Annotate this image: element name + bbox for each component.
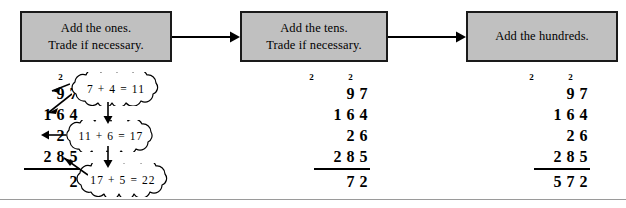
carry-row-top-hundreds: 2: [508, 72, 590, 83]
step-box-ones-line2: Trade if necessary.: [48, 37, 143, 54]
step-box-hundreds: Add the hundreds.: [466, 11, 618, 62]
arrow-down-icon-callout1-to-callout2: [100, 102, 116, 124]
addend-row-164: 1 6 4: [508, 104, 590, 125]
answer-rule: [534, 168, 590, 170]
step-box-tens-line1: Add the tens.: [280, 20, 348, 37]
addend-row-285: 2 8 5: [288, 146, 370, 167]
arrow-right-icon-ones-to-tens: [172, 30, 240, 44]
step-box-ones-line1: Add the ones.: [61, 20, 131, 37]
addend-row-285: 2 8 5: [508, 146, 590, 167]
callout-cloud-ones-1: 7 + 4 = 11: [64, 72, 168, 106]
carry-digit-hundreds: 2: [305, 72, 318, 83]
arrow-right-icon-tens-to-hundreds: [388, 30, 466, 44]
step-box-ones: Add the ones. Trade if necessary.: [20, 11, 172, 62]
answer-row-hundreds: 5 7 2: [508, 171, 590, 192]
carry-digit-hundreds: 2: [525, 72, 538, 83]
addend-row-26: 2 6: [508, 125, 590, 146]
computation-step-hundreds: 2 9 7 2 000 1 6 4 2 6 2 8 5 5 7 2: [508, 72, 590, 192]
answer-row-tens: 7 2: [288, 171, 370, 192]
carry-digit-tens: 2: [564, 72, 577, 83]
step-box-tens-line2: Trade if necessary.: [266, 37, 361, 54]
arrow-left-icon-callout1-to-164: [40, 92, 72, 118]
carry-row-top-tens: 2: [288, 72, 370, 83]
answer-rule: [314, 168, 370, 170]
carry-digit-tens: 2: [344, 72, 357, 83]
arrow-left-icon-callout2-to-26: [40, 128, 66, 142]
page-bottom-rule: [0, 199, 626, 200]
addend-row-97: 9 7: [288, 83, 370, 104]
step-box-tens: Add the tens. Trade if necessary.: [240, 11, 388, 62]
step-box-hundreds-line1: Add the hundreds.: [495, 28, 589, 45]
addend-row-26: 2 6: [288, 125, 370, 146]
arrow-left-icon-callout3-to-285: [56, 155, 88, 177]
addend-row-164: 1 6 4: [288, 104, 370, 125]
arrow-down-icon-callout2-to-callout3: [100, 146, 116, 168]
callout-text: 7 + 4 = 11: [64, 72, 168, 106]
computation-step-tens: 2 9 7 2 000 1 6 4 2 6 2 8 5 7 2: [288, 72, 370, 192]
addend-row-97: 9 7: [508, 83, 590, 104]
